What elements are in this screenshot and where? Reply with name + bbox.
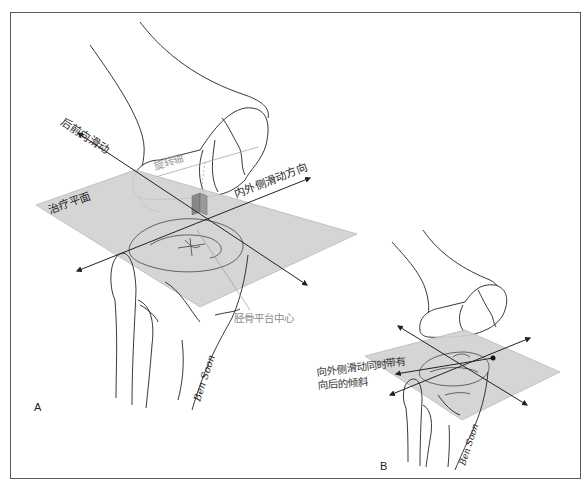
panel-letter-b: B [380,460,387,472]
panel-letter-a: A [34,401,42,413]
knee-joint-glide-diagram: 后前向滑动 旋转轴 治疗平面 内外侧滑动方向 胫骨平台中心 Ben Soon A [0,0,587,489]
label-tibial-plateau-center: 胫骨平台中心 [234,312,295,324]
contact-marker-block [192,193,207,215]
pivot-point-b [491,356,496,361]
